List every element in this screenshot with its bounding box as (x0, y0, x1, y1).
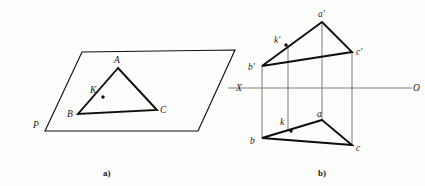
caption-a: a) (103, 168, 111, 178)
label-c-prime: c' (356, 47, 363, 57)
label-c-lower: c (356, 143, 361, 153)
caption-b: b) (318, 168, 326, 178)
label-C: C (160, 105, 167, 115)
triangle-abc-lower-outline (262, 120, 352, 145)
label-a-prime: a' (318, 9, 326, 19)
point-k-marker (101, 95, 104, 98)
panel-a-group: A B C K P (32, 50, 235, 131)
label-B: B (67, 109, 73, 119)
label-plane-P: P (32, 120, 39, 130)
label-k-lower: k (280, 117, 285, 127)
label-axis-x: X (235, 83, 243, 93)
label-K: K (89, 85, 97, 95)
label-k-prime: k' (274, 35, 281, 45)
label-a-lower: a (317, 109, 322, 119)
technical-drawing: A B C K P a' b' c' k' (0, 0, 425, 186)
figure-page: A B C K P a' b' c' k' (0, 0, 425, 186)
label-A: A (113, 55, 120, 65)
label-b-lower: b (250, 136, 255, 146)
label-axis-o: O (413, 83, 420, 93)
point-k-prime-marker (284, 43, 287, 46)
label-b-prime: b' (248, 62, 256, 72)
panel-b-group: a' b' c' k' a b c k X O (228, 9, 420, 153)
point-k-lower-marker (289, 129, 292, 132)
